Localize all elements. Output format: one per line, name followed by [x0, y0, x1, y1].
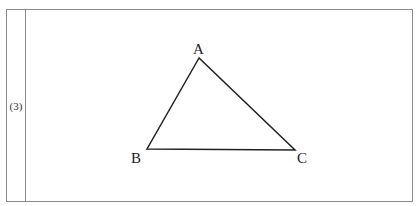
- triangle-diagram: A B C: [0, 0, 417, 206]
- vertex-label-a: A: [193, 41, 204, 57]
- vertex-label-b: B: [131, 150, 141, 166]
- triangle-abc: [147, 58, 295, 150]
- vertex-label-c: C: [297, 150, 307, 166]
